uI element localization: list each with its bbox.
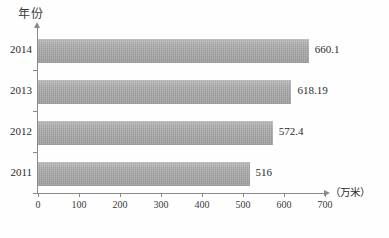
bar-value-label: 660.1 [315,43,340,55]
bar-value-label: 572.4 [279,125,304,137]
bar-value-label: 516 [256,166,273,178]
y-axis-category-label: 2013 [10,84,32,96]
x-axis-tick-label: 700 [318,199,333,210]
x-axis-tick-label: 200 [113,199,128,210]
x-axis-tick [161,193,162,197]
bar-value-label: 618.19 [297,84,327,96]
y-axis-arrow-icon [34,22,40,28]
x-axis-tick [79,193,80,197]
y-axis-category-label: 2012 [10,125,32,137]
bar [38,162,250,186]
x-axis-tick-label: 300 [154,199,169,210]
x-axis-tick-label: 500 [236,199,251,210]
x-axis-tick [120,193,121,197]
bar [38,39,309,63]
bar [38,80,291,104]
bar-chart: 年份 2014201320122011 01002003004005006007… [0,0,389,238]
x-axis-tick [325,193,326,197]
x-axis-tick-label: 600 [277,199,292,210]
x-axis-tick-label: 100 [72,199,87,210]
y-axis-category-label: 2011 [10,166,32,178]
x-axis-line [37,193,325,194]
bar [38,121,273,145]
x-axis-unit-label: （万米） [330,184,370,199]
x-axis-tick [243,193,244,197]
y-axis-tick [33,111,38,112]
y-axis-tick [33,70,38,71]
x-axis-tick-label: 400 [195,199,210,210]
y-axis-category-label: 2014 [10,43,32,55]
y-axis-tick [33,152,38,153]
x-axis-tick [202,193,203,197]
y-axis-category-labels: 2014201320122011 [0,0,32,238]
x-axis-tick [284,193,285,197]
x-axis-tick-label: 0 [36,199,41,210]
x-axis-tick [38,193,39,197]
